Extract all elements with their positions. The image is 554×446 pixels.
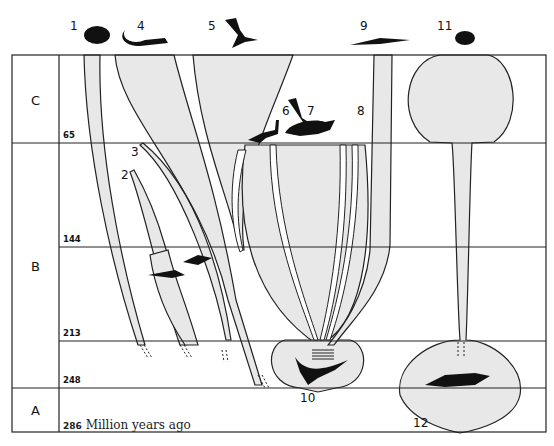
tick-213: 213 (63, 329, 81, 338)
tick-144: 144 (63, 235, 81, 244)
lineage-11-label: 11 (437, 20, 452, 32)
mammal-icon (455, 31, 475, 45)
lineage-8-label: 8 (357, 105, 365, 117)
tick-65: 65 (63, 131, 75, 140)
lizard-icon (122, 30, 168, 46)
tick-248: 248 (63, 376, 81, 385)
lineage-2-label: 2 (121, 169, 129, 181)
phylogeny-diagram (0, 0, 554, 446)
lineage-2b-branch (150, 250, 198, 345)
bird-icon (225, 18, 258, 48)
lineage-9-label: 9 (360, 20, 368, 32)
lineage-3-label: 3 (131, 146, 139, 158)
lineage-10-label: 10 (300, 392, 315, 404)
era-b-label: B (31, 260, 40, 273)
era-c-label: C (31, 94, 40, 107)
time-unit-label: Million years ago (86, 418, 191, 432)
lineage-1-label: 1 (70, 20, 78, 32)
lineage-12-label: 12 (413, 417, 428, 429)
turtle-icon (84, 26, 110, 44)
lineage-6-label: 6 (282, 105, 290, 117)
lineage-7-label: 7 (307, 105, 315, 117)
tick-286: 286 (63, 421, 82, 431)
lineage-4-label: 4 (137, 20, 145, 32)
crocodile-icon (350, 38, 410, 45)
era-a-label: A (31, 404, 40, 417)
lineage-5-label: 5 (208, 20, 216, 32)
lineage-10-base (271, 340, 363, 392)
time-axis-footer: 286 Million years ago (63, 419, 191, 431)
